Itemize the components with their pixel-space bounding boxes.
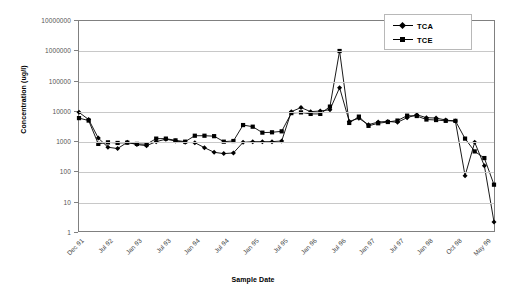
data-point-tca [463,173,468,178]
data-point-tce [482,156,486,160]
data-point-tce [453,119,457,123]
x-tick-label: Jul 96 [316,237,346,267]
y-tick-label: 1000000 [45,47,71,54]
gridline [79,203,494,204]
data-point-tce [405,114,409,118]
y-tick-label: 1000 [56,138,71,145]
data-point-tce [193,134,197,138]
data-point-tce [241,123,245,127]
data-point-tce [473,149,477,153]
data-point-tca [221,151,226,156]
data-point-tce [434,118,438,122]
plot-area [78,20,495,232]
data-point-tca [492,219,497,224]
x-axis-title: Sample Date [0,276,506,283]
data-point-tce [386,120,390,124]
data-point-tce [424,117,428,121]
y-tick-label: 10000 [52,107,71,114]
x-tick-label: Jul 94 [200,237,230,267]
data-point-tce [251,125,255,129]
data-point-tce [260,131,264,135]
x-tick-label: May 99 [462,237,492,267]
data-point-tce [87,118,91,122]
data-point-tce [366,124,370,128]
gridline [79,112,494,113]
data-point-tca [337,85,342,90]
concentration-vs-sample-date-chart: Concentration (ug/l) 1101001000100001000… [0,0,506,298]
x-tick-label: Jan 96 [287,237,317,267]
data-point-tce [415,114,419,118]
x-tick-label: Jan 94 [171,237,201,267]
x-tick-label: Oct 98 [433,237,463,267]
data-point-tce [376,121,380,125]
gridline [79,82,494,83]
data-point-tce [212,134,216,138]
data-point-tce [154,137,158,141]
data-point-tce [347,121,351,125]
data-point-tce [280,129,284,133]
y-tick-label: 10000000 [41,17,71,24]
x-tick-label: Jul 97 [375,237,405,267]
x-tick-label: Jul 93 [142,237,172,267]
x-tick-label: Jan 98 [404,237,434,267]
data-point-tce [270,130,274,134]
square-marker-icon [393,35,413,45]
x-tick-label: Jan 95 [229,237,259,267]
data-point-tce [492,183,496,187]
chart-legend: TCA TCE [384,14,472,50]
data-point-tce [357,115,361,119]
gridline [79,172,494,173]
legend-label-tca: TCA [417,22,433,31]
y-tick-label: 100 [60,168,71,175]
x-tick-label: Jul 95 [258,237,288,267]
data-point-tce [444,119,448,123]
y-tick-mark [74,232,78,233]
data-point-tca [115,146,120,151]
legend-label-tce: TCE [417,36,433,45]
y-tick-label: 100000 [49,77,71,84]
data-point-tca [202,145,207,150]
data-point-tce [463,137,467,141]
diamond-marker-icon [393,21,413,31]
data-point-tca [298,105,303,110]
data-point-tce [77,116,81,120]
legend-item-tce: TCE [393,33,471,47]
x-tick-label: Jul 92 [84,237,114,267]
series-layer [79,21,494,231]
y-axis: 110100100010000100000100000010000000 [0,0,78,252]
data-point-tce [395,118,399,122]
data-point-tca [212,150,217,155]
legend-item-tca: TCA [393,19,471,33]
x-tick-label: Jan 93 [113,237,143,267]
gridline [79,142,494,143]
data-point-tce [328,105,332,109]
x-tick-label: Jan 97 [345,237,375,267]
data-point-tce [202,134,206,138]
y-tick-label: 1 [67,229,71,236]
data-point-tce [164,137,168,141]
y-tick-label: 10 [64,198,71,205]
gridline [79,51,494,52]
